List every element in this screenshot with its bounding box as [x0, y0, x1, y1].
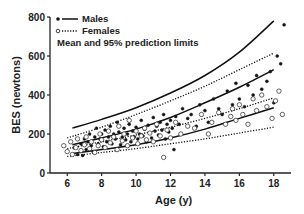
- male-data-point: [123, 127, 126, 130]
- female-data-point: [148, 131, 152, 135]
- female-data-point: [229, 114, 233, 118]
- male-data-point: [147, 124, 150, 127]
- y-tick-label: 0: [39, 168, 45, 179]
- female-data-point: [96, 144, 100, 148]
- x-tick-label: 14: [199, 178, 211, 189]
- male-data-point: [109, 125, 112, 128]
- female-data-point: [120, 139, 124, 143]
- male-data-point: [128, 123, 131, 126]
- male-data-point: [234, 82, 237, 85]
- female-data-point: [82, 143, 86, 147]
- female-data-point: [139, 134, 143, 138]
- female-data-point: [273, 99, 277, 103]
- male-data-point: [283, 23, 286, 26]
- male-data-point: [119, 143, 122, 146]
- female-data-point: [280, 112, 284, 116]
- female-data-point: [106, 129, 110, 133]
- female-data-point: [98, 132, 102, 136]
- male-data-point: [269, 70, 272, 73]
- male-data-point: [107, 135, 110, 138]
- male-data-point: [88, 133, 91, 136]
- male-data-point: [181, 107, 184, 110]
- female-data-point: [206, 132, 210, 136]
- female-data-point: [165, 128, 169, 132]
- female-data-point: [65, 149, 69, 153]
- male-data-point: [186, 117, 189, 120]
- x-tick-label: 10: [131, 178, 143, 189]
- male-data-point: [231, 103, 234, 106]
- x-tick-label: 8: [99, 178, 105, 189]
- female-data-point: [158, 134, 162, 138]
- male-data-point: [135, 126, 138, 129]
- x-axis-title: Age (y): [155, 194, 193, 206]
- curve-females-upper-95-limit: [67, 53, 274, 138]
- female-data-point: [117, 124, 121, 128]
- male-data-point: [279, 62, 282, 65]
- male-data-point: [243, 105, 246, 108]
- female-data-point: [74, 145, 78, 149]
- male-data-point: [198, 103, 201, 106]
- female-data-point: [155, 122, 159, 126]
- male-data-point: [136, 137, 139, 140]
- y-tick-label: 800: [28, 12, 45, 23]
- male-data-point: [246, 84, 249, 87]
- female-data-point: [260, 93, 264, 97]
- female-data-point: [130, 136, 134, 140]
- female-data-point: [151, 140, 155, 144]
- male-data-point: [252, 94, 255, 97]
- male-data-point: [255, 74, 258, 77]
- legend-males-marker: [56, 17, 60, 21]
- male-data-point: [260, 88, 263, 91]
- female-data-point: [270, 116, 274, 120]
- female-data-point: [234, 118, 238, 122]
- female-data-point: [265, 105, 269, 109]
- male-data-point: [203, 109, 206, 112]
- female-data-point: [75, 137, 79, 141]
- female-data-point: [68, 140, 72, 144]
- female-data-point: [192, 126, 196, 130]
- female-data-point: [122, 132, 126, 136]
- female-data-point: [93, 150, 97, 154]
- legend-males-label: Males: [82, 13, 108, 24]
- female-data-point: [173, 120, 177, 124]
- curve-females-mean: [67, 98, 274, 149]
- legend-note: Mean and 95% prediction limits: [57, 37, 198, 48]
- male-data-point: [226, 90, 229, 93]
- female-data-point: [87, 146, 91, 150]
- male-data-point: [217, 107, 220, 110]
- female-data-point: [62, 144, 66, 148]
- x-tick-label: 6: [64, 178, 70, 189]
- male-data-point: [150, 136, 153, 139]
- x-tick-label: 16: [234, 178, 246, 189]
- male-data-point: [140, 119, 143, 122]
- female-data-point: [223, 122, 227, 126]
- female-data-point: [84, 135, 88, 139]
- male-data-point: [221, 113, 224, 116]
- male-data-point: [129, 140, 132, 143]
- male-data-point: [95, 127, 98, 130]
- male-data-point: [152, 116, 155, 119]
- male-data-point: [169, 119, 172, 122]
- female-data-point: [254, 108, 258, 112]
- male-data-point: [212, 97, 215, 100]
- male-data-point: [117, 131, 120, 134]
- male-data-point: [172, 148, 175, 151]
- male-data-point: [81, 154, 84, 157]
- female-data-point: [70, 152, 74, 156]
- y-tick-label: 200: [28, 129, 45, 140]
- male-data-point: [276, 55, 279, 58]
- female-data-point: [246, 122, 250, 126]
- legend-females-marker: [56, 29, 60, 33]
- female-data-point: [115, 147, 119, 151]
- male-data-point: [190, 113, 193, 116]
- chart: 0200400600800681012141618 Males Females …: [0, 0, 304, 214]
- male-data-point: [171, 127, 174, 130]
- y-tick-label: 600: [28, 51, 45, 62]
- female-data-point: [125, 144, 129, 148]
- female-data-point: [103, 145, 107, 149]
- male-data-point: [166, 123, 169, 126]
- male-data-point: [116, 121, 119, 124]
- x-tick-label: 18: [268, 178, 280, 189]
- female-data-point: [89, 140, 93, 144]
- male-data-point: [238, 97, 241, 100]
